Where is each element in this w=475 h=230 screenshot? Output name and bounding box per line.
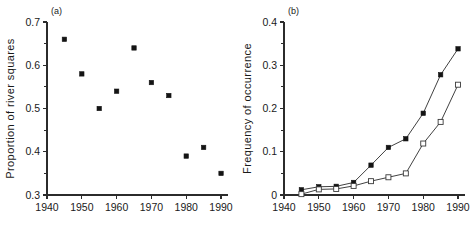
data-point-b-0-4 <box>369 163 373 167</box>
y-ticklabel-b-3: 0.3 <box>262 59 277 71</box>
x-ticklabel-b-2: 1960 <box>342 201 366 213</box>
panel-a-plot: 0.30.40.50.60.7194019501960197019801990P… <box>0 0 238 230</box>
data-point-b-0-8 <box>438 73 442 77</box>
x-ticklabel-b-0: 1940 <box>272 201 296 213</box>
data-point-a-0-9 <box>219 171 223 175</box>
panel-label-a: (a) <box>51 6 62 16</box>
y-ticklabel-b-2: 0.2 <box>262 102 277 114</box>
data-point-b-1-4 <box>369 179 374 184</box>
x-ticklabel-b-1: 1950 <box>307 201 331 213</box>
data-point-a-0-3 <box>114 89 118 93</box>
data-point-b-1-3 <box>351 183 356 188</box>
y-axis-title-a: Proportion of river squares <box>4 38 16 179</box>
chart-panel-a: 0.30.40.50.60.7194019501960197019801990P… <box>0 0 238 230</box>
data-point-b-1-1 <box>316 187 321 192</box>
x-ticklabel-a-3: 1970 <box>140 201 164 213</box>
data-point-a-0-6 <box>167 93 171 97</box>
data-point-a-0-2 <box>97 106 101 110</box>
x-ticklabel-a-0: 1940 <box>35 201 59 213</box>
data-point-a-0-1 <box>80 72 84 76</box>
data-point-b-1-7 <box>421 141 426 146</box>
data-point-b-1-9 <box>456 82 461 87</box>
data-point-a-0-7 <box>184 154 188 158</box>
y-ticklabel-a-2: 0.5 <box>25 102 40 114</box>
y-ticklabel-b-1: 0.1 <box>262 145 277 157</box>
x-ticklabel-a-2: 1960 <box>105 201 129 213</box>
y-ticklabel-a-3: 0.6 <box>25 59 40 71</box>
chart-panel-b: 00.10.20.30.4194019501960197019801990Fre… <box>237 0 475 230</box>
x-ticklabel-a-5: 1990 <box>209 201 233 213</box>
series-line-b-1 <box>301 85 458 194</box>
y-ticklabel-b-0: 0 <box>271 189 277 201</box>
x-ticklabel-a-1: 1950 <box>70 201 94 213</box>
y-ticklabel-a-1: 0.4 <box>25 145 40 157</box>
data-point-b-0-6 <box>404 137 408 141</box>
data-point-a-0-4 <box>132 46 136 50</box>
y-ticklabel-a-4: 0.7 <box>25 16 40 28</box>
data-point-b-1-5 <box>386 175 391 180</box>
data-point-b-1-6 <box>403 171 408 176</box>
y-ticklabel-a-0: 0.3 <box>25 189 40 201</box>
x-ticklabel-b-3: 1970 <box>377 201 401 213</box>
x-ticklabel-b-5: 1990 <box>446 201 470 213</box>
panel-b-plot: 00.10.20.30.4194019501960197019801990Fre… <box>237 0 475 230</box>
data-point-b-1-0 <box>299 192 304 197</box>
x-ticklabel-b-4: 1980 <box>412 201 436 213</box>
data-point-b-0-9 <box>456 47 460 51</box>
panel-label-b: (b) <box>288 6 299 16</box>
data-point-a-0-5 <box>149 80 153 84</box>
series-line-b-0 <box>301 49 458 190</box>
data-point-b-0-7 <box>421 111 425 115</box>
figure-container: 0.30.40.50.60.7194019501960197019801990P… <box>0 0 475 230</box>
y-ticklabel-b-4: 0.4 <box>262 16 277 28</box>
data-point-b-1-2 <box>334 186 339 191</box>
data-point-a-0-8 <box>201 145 205 149</box>
data-point-b-0-5 <box>386 145 390 149</box>
data-point-b-1-8 <box>438 119 443 124</box>
data-point-a-0-0 <box>62 37 66 41</box>
x-ticklabel-a-4: 1980 <box>175 201 199 213</box>
y-axis-title-b: Frequency of occurrence <box>241 43 253 174</box>
